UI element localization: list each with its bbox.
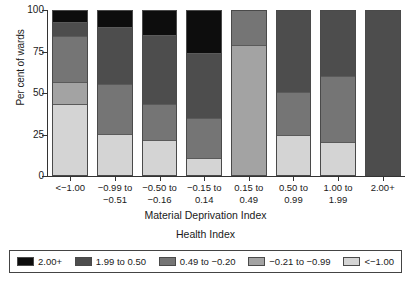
bar-segment [232, 11, 266, 45]
bar-segment [321, 11, 355, 76]
bar-column[interactable] [52, 10, 88, 176]
x-tick-mark [204, 177, 205, 181]
bar-segment [277, 135, 311, 175]
legend-swatch [17, 257, 34, 266]
legend-swatch [75, 257, 92, 266]
legend-swatch [248, 257, 265, 266]
legend-label: <−1.00 [364, 257, 394, 267]
x-axis-title: Material Deprivation Index [0, 209, 411, 221]
bar-segment [366, 11, 400, 175]
bar-segment [321, 76, 355, 142]
y-tick-mark [42, 10, 47, 11]
bar-column[interactable] [186, 10, 222, 176]
bar-segment [143, 11, 177, 35]
legend-item[interactable]: 0.49 to −0.20 [159, 257, 236, 267]
x-tick-label: 2.00+ [360, 182, 405, 194]
bar-segment [321, 142, 355, 175]
bar-segment [187, 158, 221, 175]
stacked-bar-chart: Per cent of wards 0255075100 <−1.00−0.99… [0, 0, 411, 290]
bar-segment [187, 118, 221, 158]
bar-segment [277, 92, 311, 135]
x-tick-label: −0.99 to−0.51 [93, 182, 138, 206]
bar-column[interactable] [365, 10, 401, 176]
legend-label: 2.00+ [38, 257, 62, 267]
legend-item[interactable]: 1.99 to 0.50 [75, 257, 146, 267]
bar-segment [277, 11, 311, 92]
legend-swatch [159, 257, 176, 266]
legend-label: 0.49 to −0.20 [180, 257, 236, 267]
bar-segment [143, 140, 177, 175]
x-tick-label: 1.00 to1.99 [316, 182, 361, 206]
bar-segment [98, 11, 132, 27]
bar-segment [143, 35, 177, 104]
legend-item[interactable]: <−1.00 [343, 257, 394, 267]
bar-segment [143, 104, 177, 140]
legend-swatch [343, 257, 360, 266]
bar-segment [53, 22, 87, 36]
plot-area: Per cent of wards 0255075100 <−1.00−0.99… [0, 0, 411, 178]
bars-container [48, 10, 405, 176]
x-axis-tick-labels: <−1.00−0.99 to−0.51−0.50 to−0.16−0.15 to… [48, 182, 405, 208]
x-tick-mark [338, 177, 339, 181]
x-tick-label: 0.50 to0.99 [271, 182, 316, 206]
bar-segment [53, 104, 87, 175]
bar-column[interactable] [142, 10, 178, 176]
bar-segment [98, 27, 132, 84]
bar-segment [53, 11, 87, 22]
bar-segment [98, 134, 132, 175]
bar-column[interactable] [320, 10, 356, 176]
y-tick-mark [42, 135, 47, 136]
x-tick-label: −0.15 to0.14 [182, 182, 227, 206]
y-tick-mark [42, 93, 47, 94]
x-tick-label: <−1.00 [48, 182, 93, 194]
x-tick-mark [70, 177, 71, 181]
x-tick-label: 0.15 to0.49 [227, 182, 272, 206]
bar-segment [53, 36, 87, 82]
bar-segment [98, 84, 132, 133]
legend-item[interactable]: 2.00+ [17, 257, 62, 267]
x-tick-mark [160, 177, 161, 181]
bar-column[interactable] [231, 10, 267, 176]
bar-column[interactable] [97, 10, 133, 176]
x-tick-mark [249, 177, 250, 181]
x-tick-label: −0.50 to−0.16 [137, 182, 182, 206]
chart-subtitle: Health Index [0, 228, 411, 240]
y-axis-tick-labels: 0255075100 [14, 0, 44, 178]
y-tick-mark [42, 176, 47, 177]
x-axis-line [47, 176, 405, 177]
bar-segment [187, 11, 221, 53]
legend-label: −0.21 to −0.99 [269, 257, 330, 267]
legend-label: 1.99 to 0.50 [96, 257, 146, 267]
legend-item[interactable]: −0.21 to −0.99 [248, 257, 330, 267]
x-tick-mark [115, 177, 116, 181]
x-tick-mark [293, 177, 294, 181]
x-tick-mark [383, 177, 384, 181]
bar-segment [53, 82, 87, 104]
bar-segment [232, 45, 266, 175]
legend: 2.00+1.99 to 0.500.49 to −0.20−0.21 to −… [9, 250, 402, 273]
y-tick-mark [42, 52, 47, 53]
bar-segment [187, 53, 221, 118]
bar-column[interactable] [276, 10, 312, 176]
